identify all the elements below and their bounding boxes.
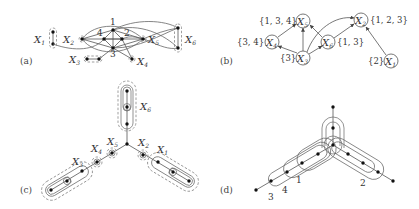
x2-label: X2	[62, 34, 74, 46]
x1-label: X1	[33, 34, 45, 46]
tree-edges	[51, 91, 189, 190]
node-x4: X4 {3, 4}	[237, 35, 279, 49]
panel-c: (c) X6 X5 X4 X2 X3	[20, 81, 202, 204]
vertex	[130, 57, 133, 60]
panel-label-b: (b)	[220, 56, 233, 66]
vertex	[111, 28, 114, 31]
vertex-label-4: 4	[97, 28, 103, 38]
x6-label: X6	[139, 101, 151, 113]
node-x5: X5 {1, 3, 4}	[259, 14, 310, 28]
panel-label-a: (a)	[20, 56, 32, 66]
set-x1: {2}	[368, 56, 384, 66]
vertex	[102, 37, 105, 40]
x1-label: X1	[156, 144, 168, 156]
x4-label: X4	[90, 143, 102, 155]
vertex-label-2: 2	[124, 28, 130, 38]
x5-label: X5	[106, 136, 118, 148]
node-x6: X6 {1, 3}	[321, 35, 364, 49]
x5-label: X5	[147, 34, 159, 46]
x4-label: X4	[136, 56, 148, 68]
node-x2: X2 {1, 2, 3}	[354, 13, 408, 27]
set-x5: {1, 3, 4}	[259, 16, 297, 26]
node-x3: X3 {3}	[280, 51, 310, 65]
region-label-3: 3	[268, 192, 274, 202]
set-x3: {3}	[280, 53, 296, 63]
tree-vertices	[49, 89, 190, 191]
x3-label: X3	[71, 156, 83, 168]
region-label-2: 2	[360, 178, 366, 188]
figure-canvas: (a) X1 X2	[0, 0, 419, 209]
set-x4: {3, 4}	[237, 37, 264, 47]
panel-d: (d) 3 4 1 2	[220, 105, 395, 202]
set-x2: {1, 2, 3}	[370, 15, 408, 25]
vertex	[85, 57, 88, 60]
vertex	[80, 37, 83, 40]
panel-label-d: (d)	[220, 185, 233, 195]
panel-a: (a) X1 X2	[20, 17, 196, 68]
vertex-label-1: 1	[110, 17, 116, 27]
vertex	[141, 37, 144, 40]
vertex	[51, 30, 54, 33]
x2-label: X2	[137, 137, 149, 149]
x3-label: X3	[68, 54, 80, 66]
region-label-4: 4	[282, 185, 288, 195]
panel-label-c: (c)	[20, 185, 32, 195]
vertex	[176, 46, 179, 49]
x6-label: X6	[184, 34, 196, 46]
panel-b: (b) X5 {1, 3, 4} X2 {1, 2, 3} X4 {3, 4}	[220, 13, 408, 68]
set-x6: {1, 3}	[337, 37, 364, 47]
vertex	[97, 57, 100, 60]
vertex	[176, 26, 179, 29]
vertex-label-3: 3	[110, 49, 116, 59]
node-x1: X1 {2}	[368, 54, 398, 68]
region-label-1: 1	[296, 175, 302, 185]
path-regions	[264, 117, 388, 192]
